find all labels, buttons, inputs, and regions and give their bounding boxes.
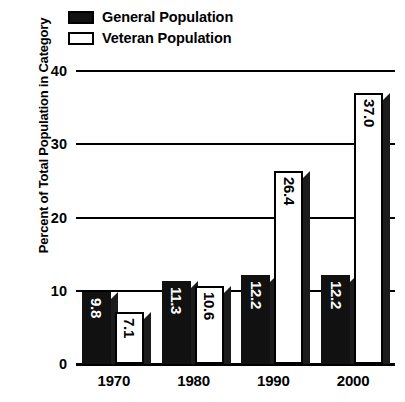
legend-item-veteran-population: Veteran Population	[68, 29, 268, 48]
bar-general-2000: 12.2	[321, 275, 350, 364]
x-axis-label-2000: 2000	[337, 372, 370, 389]
y-axis-tick-label: 20	[51, 210, 67, 226]
bar-veteran-1980: 10.6	[195, 286, 224, 364]
bar-3d-bevel	[111, 292, 118, 299]
legend-label-veteran-population: Veteran Population	[102, 31, 232, 46]
legend-item-general-population: General Population	[68, 8, 268, 27]
bar-value-label: 7.1	[122, 318, 137, 338]
bar-value-label: 12.2	[248, 281, 263, 309]
bar-veteran-1990: 26.4	[274, 171, 303, 364]
bar-general-1980: 11.3	[162, 281, 191, 364]
bar-face: 7.1	[115, 312, 144, 364]
bar-3d-side	[303, 178, 310, 364]
x-axis-label-1990: 1990	[257, 372, 290, 389]
bar-3d-side	[144, 319, 151, 364]
legend-swatch-hollow-icon	[68, 32, 94, 45]
plot-area: 0102030409.87.111.310.612.226.412.237.0	[76, 71, 395, 364]
bar-chart: General Population Veteran Population Pe…	[0, 0, 405, 402]
bar-value-label: 12.2	[328, 281, 343, 309]
bar-face: 10.6	[195, 286, 224, 364]
legend-swatch-filled-icon	[68, 11, 94, 24]
x-axis-label-1970: 1970	[98, 372, 131, 389]
bar-face: 12.2	[241, 275, 270, 364]
bar-value-label: 37.0	[361, 99, 376, 127]
gridline-20	[76, 217, 395, 219]
bar-face: 11.3	[162, 281, 191, 364]
bar-value-label: 26.4	[281, 177, 296, 205]
bar-veteran-1970: 7.1	[115, 312, 144, 364]
bar-3d-side	[383, 100, 390, 364]
bar-value-label: 9.8	[89, 298, 104, 318]
chart-legend: General Population Veteran Population	[68, 8, 268, 50]
x-axis-labels: 1970198019902000	[76, 372, 395, 396]
y-axis-tick-label: 30	[51, 136, 67, 152]
bar-face: 26.4	[274, 171, 303, 364]
bar-general-1990: 12.2	[241, 275, 270, 364]
bar-face: 12.2	[321, 275, 350, 364]
bar-3d-side	[224, 293, 231, 364]
bar-value-label: 10.6	[202, 292, 217, 320]
y-axis-tick-label: 40	[51, 63, 67, 79]
bar-face: 9.8	[82, 292, 111, 364]
y-axis-title: Percent of Total Population in Category	[36, 1, 51, 271]
bar-face: 37.0	[354, 93, 383, 364]
bar-3d-bevel	[144, 312, 151, 319]
bar-general-1970: 9.8	[82, 292, 111, 364]
bar-veteran-2000: 37.0	[354, 93, 383, 364]
y-axis-tick-label: 10	[51, 283, 67, 299]
gridline-40	[76, 70, 395, 72]
bar-3d-bevel	[383, 93, 390, 100]
x-axis-label-1980: 1980	[177, 372, 210, 389]
legend-label-general-population: General Population	[102, 10, 233, 25]
gridline-30	[76, 143, 395, 145]
bar-value-label: 11.3	[169, 287, 184, 314]
bar-3d-bevel	[303, 171, 310, 178]
y-axis-tick-label: 0	[59, 356, 67, 372]
bar-3d-bevel	[224, 286, 231, 293]
